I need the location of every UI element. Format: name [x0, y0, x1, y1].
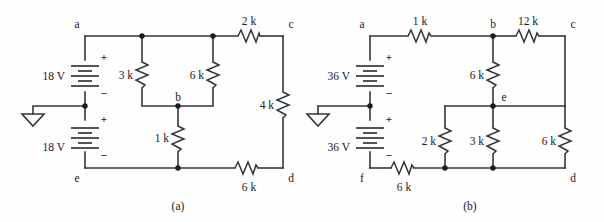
junction-dot [490, 33, 495, 38]
circuit-figure: + – + – 18 V 18 V 3 k 6 k 1 k 2 k 4 k 6 … [0, 0, 604, 222]
polarity-minus-36v-top: – [385, 86, 392, 98]
source-label-36v-bottom: 36 V [328, 141, 351, 153]
resistor-label-6k-bottom-b: 6 k [397, 181, 412, 193]
resistor-3k-symbol-b [487, 128, 499, 154]
resistor-label-1k-b: 1 k [413, 15, 428, 27]
resistor-1k-symbol-b [408, 30, 431, 42]
caption-b: (b) [463, 200, 477, 213]
resistor-6k-bottom-symbol [235, 162, 258, 174]
battery-36v-top-symbol [356, 66, 384, 86]
resistor-label-1k: 1 k [155, 132, 170, 144]
polarity-minus-36v-bottom: – [385, 148, 392, 160]
wire-ground-lead-a [33, 106, 85, 114]
resistor-label-6k-right: 6 k [542, 135, 557, 147]
battery-18v-bottom-symbol [71, 128, 99, 148]
node-label-f-b: f [360, 172, 364, 184]
resistor-label-2k-b: 2 k [422, 135, 437, 147]
polarity-plus-18v-bottom: + [101, 113, 107, 125]
resistor-label-4k: 4 k [260, 99, 275, 111]
polarity-minus-18v-top: – [100, 86, 107, 98]
wire-6k-bottom [178, 88, 213, 106]
polarity-plus-36v-top: + [386, 51, 392, 63]
node-label-a-b: a [359, 18, 364, 30]
caption-a: (a) [172, 200, 185, 213]
junction-dot [82, 103, 87, 108]
battery-18v-top-symbol [71, 66, 99, 86]
resistor-6k-vert-symbol [487, 62, 499, 88]
resistor-label-6k-vert: 6 k [470, 69, 485, 81]
resistor-label-12k: 12 k [518, 15, 538, 27]
resistor-3k-symbol [136, 62, 148, 88]
node-label-e-b: e [501, 91, 506, 103]
source-label-36v-top: 36 V [328, 70, 351, 82]
node-label-d-b: d [570, 172, 576, 184]
resistor-label-6k-mid: 6 k [190, 69, 205, 81]
circuit-svg-canvas: + – + – 18 V 18 V 3 k 6 k 1 k 2 k 4 k 6 … [0, 0, 604, 222]
battery-36v-bottom-symbol [356, 128, 384, 148]
node-label-b: b [175, 91, 181, 103]
resistor-label-2k: 2 k [242, 15, 257, 27]
junction-dot [210, 33, 215, 38]
wire-3k-bottom [142, 88, 178, 106]
node-label-e: e [74, 172, 79, 184]
junction-dot [490, 103, 495, 108]
resistor-label-3k: 3 k [119, 69, 134, 81]
wire-ground-lead-b [318, 106, 370, 114]
junction-dot [442, 165, 447, 170]
polarity-plus-36v-bottom: + [386, 113, 392, 125]
ground-icon-b [307, 114, 329, 126]
junction-dot [175, 103, 180, 108]
resistor-2k-symbol [238, 30, 260, 42]
resistor-2k-symbol-b [439, 128, 451, 154]
resistor-label-6k-bottom: 6 k [242, 181, 257, 193]
polarity-plus-18v-top: + [101, 51, 107, 63]
circuit-a: + – + – 18 V 18 V 3 k 6 k 1 k 2 k 4 k 6 … [22, 15, 294, 193]
junction-dot [490, 165, 495, 170]
resistor-6k-right-symbol [559, 128, 571, 154]
junction-dot [367, 103, 372, 108]
node-label-b-b: b [490, 18, 496, 30]
resistor-12k-symbol [516, 30, 539, 42]
ground-icon-a [22, 114, 44, 126]
node-label-d: d [288, 172, 294, 184]
resistor-4k-symbol [277, 92, 289, 118]
circuit-b: + – + – 36 V 36 V 1 k 12 k 6 k 2 k 3 k 6… [307, 15, 576, 193]
source-label-18v-bottom: 18 V [43, 141, 66, 153]
resistor-1k-symbol [172, 126, 184, 152]
node-label-c-b: c [570, 18, 575, 30]
resistor-label-3k-b: 3 k [470, 135, 485, 147]
node-label-a: a [74, 18, 79, 30]
polarity-minus-18v-bottom: – [100, 148, 107, 160]
resistor-6k-bottom-symbol-b [391, 162, 414, 174]
junction-dot [139, 33, 144, 38]
junction-dot [175, 165, 180, 170]
node-label-c: c [288, 18, 293, 30]
resistor-6k-mid-symbol [207, 62, 219, 88]
source-label-18v-top: 18 V [43, 70, 66, 82]
